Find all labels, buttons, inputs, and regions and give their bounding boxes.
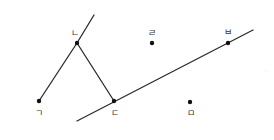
point-label-d: ㄷ [111, 108, 119, 118]
point-label-g: ㄱ [35, 108, 43, 118]
point-label-n: ㄴ [71, 28, 79, 38]
ray-n-up [77, 15, 94, 43]
point-r [150, 41, 154, 45]
point-label-r: ㄹ [148, 28, 156, 38]
point-label-m: ㅁ [187, 108, 195, 118]
point-d [112, 99, 116, 103]
point-g [37, 99, 41, 103]
seg-n-d [77, 43, 114, 101]
point-n [75, 41, 79, 45]
point-label-b: ㅂ [224, 27, 232, 37]
point-b [226, 41, 230, 45]
point-m [188, 100, 192, 104]
diagram-svg: ㄱㄴㄷㄹㅂㅁ· · [0, 0, 274, 140]
seg-g-n [39, 43, 77, 101]
geometry-diagram: ㄱㄴㄷㄹㅂㅁ· · [0, 0, 274, 140]
faint-marks: · · [263, 67, 269, 74]
